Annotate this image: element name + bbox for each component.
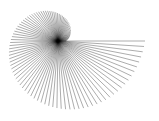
spiral-line bbox=[58, 41, 102, 102]
radiating-lines bbox=[9, 11, 145, 110]
spiral-line-figure bbox=[0, 0, 159, 121]
